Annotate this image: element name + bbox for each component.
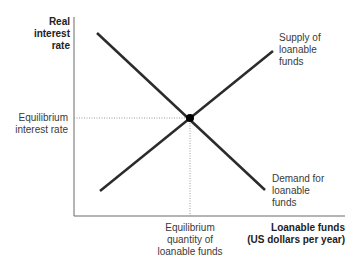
eq-rate-label: Equilibrium interest rate	[0, 112, 68, 136]
demand-label: Demand for loanable funds	[272, 173, 324, 209]
supply-curve	[100, 51, 273, 191]
supply-label: Supply of loanable funds	[279, 32, 321, 68]
eq-qty-label: Equilibrium quantity of loanable funds	[145, 222, 235, 258]
y-axis-label: Real interest rate	[20, 16, 70, 52]
equilibrium-point	[186, 114, 194, 122]
demand-curve	[97, 33, 265, 190]
x-axis-label: Loanable funds (US dollars per year)	[230, 222, 345, 246]
